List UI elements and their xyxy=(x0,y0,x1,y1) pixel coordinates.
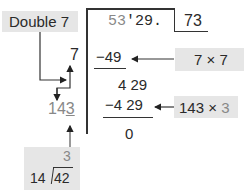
arrows-layer xyxy=(0,0,248,195)
up-to-7-arrow xyxy=(57,66,70,98)
double-arrow xyxy=(40,32,66,80)
